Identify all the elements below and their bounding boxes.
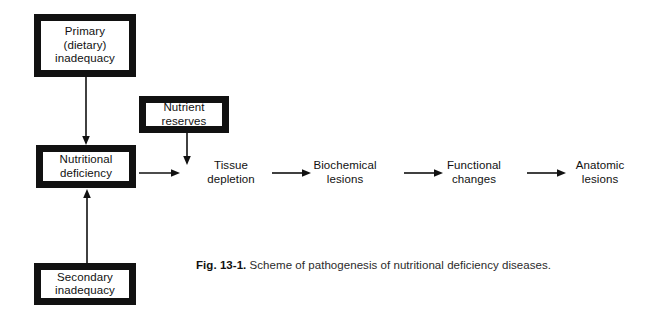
node-primary-dietary-inadequacy: Primary (dietary) inadequacy	[34, 14, 136, 77]
node-nutritional-deficiency-label: Nutritional deficiency	[60, 153, 113, 180]
node-secondary-inadequacy: Secondary inadequacy	[34, 263, 136, 305]
figure-caption-label: Fig. 13-1.	[196, 259, 246, 271]
node-primary-label: Primary (dietary) inadequacy	[55, 25, 115, 66]
arrow-primary-to-deficiency	[78, 76, 94, 146]
node-tissue-depletion: Tissue depletion	[207, 159, 255, 186]
node-anatomic-lesions: Anatomic lesions	[576, 159, 625, 186]
node-nutrient-reserves-label: Nutrient reserves	[162, 101, 207, 128]
figure-caption-text: Scheme of pathogenesis of nutritional de…	[246, 259, 551, 271]
node-nutrient-reserves: Nutrient reserves	[139, 96, 229, 133]
node-nutritional-deficiency: Nutritional deficiency	[36, 145, 136, 188]
node-functional-changes: Functional changes	[447, 159, 501, 186]
arrow-functional-to-anatomic	[527, 165, 567, 181]
arrow-tissue-to-biochemical	[272, 165, 312, 181]
arrow-deficiency-to-tissue	[139, 165, 181, 181]
node-biochemical-lesions: Biochemical lesions	[313, 159, 376, 186]
arrow-biochemical-to-functional	[404, 165, 444, 181]
node-secondary-inadequacy-label: Secondary inadequacy	[55, 271, 115, 298]
arrow-reserves-to-tissue	[179, 132, 195, 166]
arrow-secondary-to-deficiency	[79, 188, 95, 264]
node-secondary-inadequacy-inner: Secondary inadequacy	[40, 269, 130, 299]
node-primary-inner: Primary (dietary) inadequacy	[40, 20, 130, 71]
node-nutritional-deficiency-inner: Nutritional deficiency	[42, 151, 130, 182]
figure-caption: Fig. 13-1. Scheme of pathogenesis of nut…	[196, 258, 551, 273]
node-nutrient-reserves-inner: Nutrient reserves	[145, 102, 223, 127]
